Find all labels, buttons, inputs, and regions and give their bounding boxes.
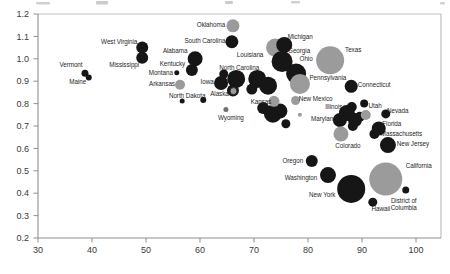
bubble-unlabeled-48 bbox=[361, 110, 371, 120]
bubble-alabama bbox=[188, 51, 203, 66]
bubble-colorado bbox=[333, 127, 348, 142]
bubble-connecticut bbox=[345, 80, 358, 93]
bubble-washington bbox=[320, 167, 336, 183]
bubble-unlabeled-24 bbox=[281, 119, 290, 128]
y-tick-label-0.4: 0.4 bbox=[16, 188, 29, 198]
state-label-new-mexico: New Mexico bbox=[299, 95, 333, 102]
state-label-new-york: New York bbox=[309, 191, 336, 198]
state-label-colorado: Colorado bbox=[335, 142, 361, 149]
x-tick-label-40: 40 bbox=[87, 245, 97, 255]
state-label-oregon: Oregon bbox=[282, 157, 303, 165]
x-tick-label-60: 60 bbox=[195, 245, 205, 255]
state-label-illinois: Illinois bbox=[325, 103, 342, 110]
bubble-oklahoma bbox=[226, 19, 239, 32]
y-tick-label-0.7: 0.7 bbox=[16, 121, 29, 131]
state-label-iowa: Iowa bbox=[201, 78, 215, 85]
state-label-district-of-columbia: District ofColumbia bbox=[391, 197, 418, 211]
state-label-vermont: Vermont bbox=[59, 61, 82, 68]
bubble-unlabeled-16 bbox=[259, 77, 277, 95]
y-tick-label-0.5: 0.5 bbox=[16, 166, 29, 176]
bubble-south-carolina bbox=[225, 35, 238, 48]
x-tick-label-70: 70 bbox=[249, 245, 259, 255]
bubble-montana bbox=[174, 70, 179, 75]
state-label-washington: Washington bbox=[285, 174, 318, 182]
state-label-kentucky: Kentucky bbox=[160, 60, 186, 68]
bubble-utah bbox=[360, 100, 368, 108]
y-tick-label-1.1: 1.1 bbox=[16, 32, 29, 42]
bubble-texas bbox=[316, 46, 344, 74]
y-tick-label-1.2: 1.2 bbox=[16, 9, 29, 19]
state-label-montana: Montana bbox=[149, 69, 174, 76]
bubble-oregon bbox=[306, 155, 318, 167]
bubble-unlabeled-29 bbox=[347, 102, 357, 112]
state-label-pennsylvania: Pennsylvania bbox=[309, 74, 346, 82]
x-tick-label-80: 80 bbox=[303, 245, 313, 255]
state-label-maine: Maine bbox=[69, 78, 86, 85]
y-tick-label-0.8: 0.8 bbox=[16, 99, 29, 109]
clipped-title-fragments bbox=[36, 1, 445, 5]
state-label-wyoming: Wyoming bbox=[218, 114, 244, 122]
state-label-north-dakota: North Dakota bbox=[169, 92, 206, 99]
bubble-north-dakota bbox=[180, 98, 185, 103]
state-label-maryland: Maryland bbox=[311, 115, 337, 123]
state-label-mississippi: Mississippi bbox=[109, 61, 139, 69]
state-label-louisiana: Louisiana bbox=[237, 51, 264, 58]
x-tick-label-90: 90 bbox=[357, 245, 367, 255]
bubble-california bbox=[369, 163, 402, 196]
y-tick-label-1.0: 1.0 bbox=[16, 54, 29, 64]
bubble-maine bbox=[86, 74, 92, 80]
bubble-alaska bbox=[230, 88, 237, 95]
bubble-iowa bbox=[214, 76, 228, 90]
state-label-kansas: Kansas bbox=[251, 98, 272, 105]
x-tick-label-100: 100 bbox=[408, 245, 423, 255]
bubble-chart-canvas: 304050607080901001.21.11.00.90.80.70.60.… bbox=[0, 0, 450, 274]
state-label-michigan: Michigan bbox=[288, 33, 313, 41]
state-label-west-virginia: West Virginia bbox=[101, 38, 138, 46]
state-label-hawaii: Hawaii bbox=[371, 205, 390, 212]
bubble-massachusetts bbox=[369, 129, 379, 139]
x-tick-label-50: 50 bbox=[141, 245, 151, 255]
state-label-california: California bbox=[406, 162, 433, 169]
state-label-north-carolina: North Carolina bbox=[219, 64, 259, 71]
y-tick-label-0.3: 0.3 bbox=[16, 211, 29, 221]
bubble-new-york bbox=[337, 175, 365, 203]
state-label-south-carolina: South Carolina bbox=[184, 37, 226, 44]
y-tick-label-0.9: 0.9 bbox=[16, 76, 29, 86]
bubble-unlabeled-17 bbox=[246, 84, 257, 95]
bubble-north-carolina bbox=[227, 70, 245, 88]
state-label-oklahoma: Oklahoma bbox=[197, 21, 226, 28]
state-label-arkansas: Arkansas bbox=[149, 80, 175, 87]
state-label-utah: Utah bbox=[369, 102, 383, 109]
x-tick-label-30: 30 bbox=[33, 245, 43, 255]
bubble-unlabeled-30 bbox=[348, 121, 358, 131]
bubble-unlabeled-49 bbox=[298, 113, 302, 117]
bubble-new-jersey bbox=[380, 137, 396, 153]
y-tick-label-0.2: 0.2 bbox=[16, 233, 29, 243]
state-label-ohio: Ohio bbox=[300, 55, 314, 62]
bubble-district-of-columbia bbox=[402, 187, 409, 194]
state-label-massachusetts: Massachusetts bbox=[381, 130, 422, 137]
state-label-new-jersey: New Jersey bbox=[397, 140, 430, 148]
bubble-pennsylvania bbox=[290, 74, 310, 94]
state-label-connecticut: Connecticut bbox=[358, 81, 391, 88]
bubble-arkansas bbox=[175, 80, 185, 90]
state-label-nevada: Nevada bbox=[387, 107, 409, 114]
y-tick-label-0.6: 0.6 bbox=[16, 144, 29, 154]
state-label-alaska: Alaska bbox=[210, 90, 229, 97]
state-label-alabama: Alabama bbox=[163, 47, 188, 54]
state-label-florida: Florida bbox=[382, 120, 401, 127]
state-label-texas: Texas bbox=[345, 46, 361, 53]
bubble-kentucky bbox=[186, 64, 198, 76]
state-bubble-chart-figure: 304050607080901001.21.11.00.90.80.70.60.… bbox=[0, 0, 450, 274]
bubble-wyoming bbox=[223, 107, 228, 112]
